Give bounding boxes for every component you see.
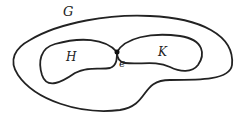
label-h: H: [66, 51, 76, 63]
label-e: e: [119, 58, 126, 69]
label-g: G: [63, 5, 73, 18]
region-h-outline: [40, 40, 117, 84]
point-e-dot: [115, 50, 120, 55]
label-k: K: [158, 46, 167, 58]
